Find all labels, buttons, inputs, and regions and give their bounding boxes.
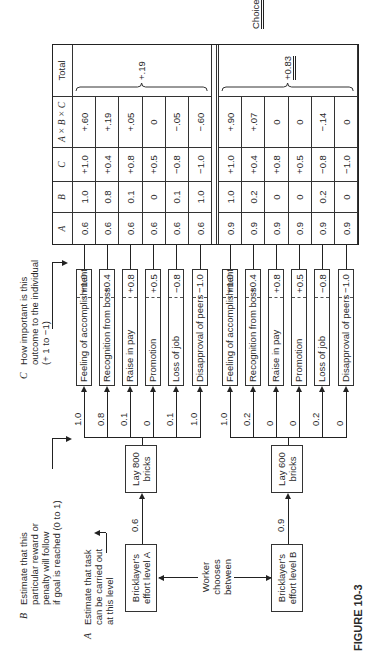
outcome-box: Disapproval of peers−1.0 xyxy=(338,269,354,386)
outcome-importance: +0.5 xyxy=(146,270,160,298)
outcome-box: Raise in pay+0.8 xyxy=(268,269,284,386)
branch-line xyxy=(176,391,177,438)
outcome-label: Promotion xyxy=(293,339,305,382)
connector-line xyxy=(346,245,347,269)
total-value: +.19 xyxy=(136,61,147,80)
reward-probability: 1.0 xyxy=(218,413,229,426)
arrow-icon xyxy=(227,386,233,392)
legend-line: Estimate that task xyxy=(82,549,93,625)
outcome-label: Loss of job xyxy=(170,336,182,382)
table-cell-a: 0.9 xyxy=(334,212,358,245)
reward-probability: 0.2 xyxy=(310,413,321,426)
table-cell-c: −1.0 xyxy=(188,147,212,182)
outcome-importance: −1.0 xyxy=(193,270,207,298)
outcome-box: Loss of job−0.8 xyxy=(314,269,330,386)
table-cell-c: +0.5 xyxy=(288,147,312,182)
table-cell-a: 0.9 xyxy=(264,212,288,245)
choice-label: Choice xyxy=(250,0,264,29)
table-header-b: B xyxy=(52,181,73,213)
outcome-box: Recognition from boss+0.4 xyxy=(99,269,115,386)
outcome-importance: −0.8 xyxy=(169,270,183,298)
arrow-icon xyxy=(273,386,279,392)
effort-box: Bricklayer'seffort level B xyxy=(271,544,303,612)
table-cell-b: 0.2 xyxy=(311,181,335,213)
table-cell-abc: 0 xyxy=(264,96,288,148)
table-header-c: C xyxy=(52,147,73,182)
connector-line xyxy=(107,245,108,269)
worker-choice-line: chooses xyxy=(211,559,222,594)
reward-probability: 0.1 xyxy=(118,413,129,426)
table-cell-c: +0.8 xyxy=(118,147,142,182)
table-cell-b: 0.1 xyxy=(165,181,189,213)
arrow-icon xyxy=(81,386,87,392)
reward-probability: 0 xyxy=(264,421,275,426)
effort-to-task-line xyxy=(288,499,289,544)
branch-line xyxy=(276,391,277,438)
task-box: Lay 800bricks xyxy=(125,445,157,493)
table-cell-c: −0.8 xyxy=(311,147,335,182)
brace-icon xyxy=(72,79,211,93)
effort-label-line: effort level B xyxy=(287,552,298,605)
outcome-importance: +0.4 xyxy=(100,270,114,298)
arrow-icon xyxy=(197,386,203,392)
outcome-importance: +0.8 xyxy=(269,270,283,298)
task-label-line: bricks xyxy=(141,457,152,482)
outcome-box: Promotion+0.5 xyxy=(145,269,161,386)
expectancy-diagram: ABCA × B × CTotal0.61.0+1.0+.600.60.8+0.… xyxy=(0,0,374,659)
effort-label-line: Bricklayer's xyxy=(130,554,141,602)
legend-line: outcome to the individual xyxy=(29,260,40,365)
reward-probability: 1.0 xyxy=(188,413,199,426)
branch-line xyxy=(322,391,323,438)
outcome-box: Feeling of accomplishment+1.0 xyxy=(222,269,238,386)
table-cell-abc: 0 xyxy=(142,96,166,148)
arrow-icon xyxy=(250,386,256,392)
reward-probability: 0.1 xyxy=(164,413,175,426)
task-probability: 0.6 xyxy=(129,519,140,532)
arrow-icon xyxy=(296,386,302,392)
table-cell-c: +1.0 xyxy=(72,147,96,182)
table-cell-a: 0.6 xyxy=(188,212,212,245)
outcome-label: Raise in pay xyxy=(270,330,282,382)
table-cell-b: 1.0 xyxy=(72,181,96,213)
connector-line xyxy=(153,245,154,269)
arrow-icon xyxy=(158,575,164,581)
outcome-importance: +1.0 xyxy=(77,270,91,298)
table-cell-abc: −.14 xyxy=(311,96,335,148)
table-cell-b: 0 xyxy=(288,181,312,213)
outcome-importance: +1.0 xyxy=(223,270,237,298)
task-box: Lay 600bricks xyxy=(271,445,303,493)
connector-line xyxy=(322,245,323,269)
outcome-label: Promotion xyxy=(147,339,159,382)
arrow-icon xyxy=(139,493,145,499)
table-cell-abc: 0 xyxy=(288,96,312,148)
worker-choice-line: Worker xyxy=(200,562,211,592)
outcome-label: Recognition from boss xyxy=(247,287,259,382)
arrow-icon xyxy=(173,386,179,392)
reward-probability: 0 xyxy=(334,421,345,426)
table-cell-b: 0 xyxy=(334,181,358,213)
outcome-importance: −0.8 xyxy=(315,270,329,298)
branch-line xyxy=(253,391,254,438)
connector-line xyxy=(230,245,231,269)
table-cell-c: +0.5 xyxy=(142,147,166,182)
task-label-line: Lay 600 xyxy=(276,452,287,486)
table-cell-a: 0.6 xyxy=(72,212,96,245)
arrow-icon xyxy=(66,436,72,442)
branch-line xyxy=(130,391,131,438)
table-cell-abc: −.05 xyxy=(165,96,189,148)
connector-line xyxy=(176,245,177,269)
table-cell-c: +0.8 xyxy=(264,147,288,182)
outcome-label: Raise in pay xyxy=(124,330,136,382)
table-cell-a: 0.9 xyxy=(288,212,312,245)
arrow-icon xyxy=(150,386,156,392)
reward-probability: 0 xyxy=(141,421,152,426)
outcome-importance: +0.4 xyxy=(246,270,260,298)
table-cell-c: +0.4 xyxy=(95,147,119,182)
table-cell-abc: +.05 xyxy=(118,96,142,148)
table-cell-a: 0.6 xyxy=(165,212,189,245)
worker-choice-line: between xyxy=(222,559,233,595)
legend-letter: C xyxy=(18,372,29,379)
table-cell-b: 0.8 xyxy=(95,181,119,213)
worker-choice-label: Workerchoosesbetween xyxy=(198,551,234,603)
arrow-icon xyxy=(94,530,100,536)
